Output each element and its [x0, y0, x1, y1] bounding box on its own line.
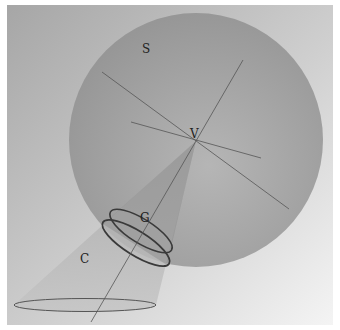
geometry-diagram: S V G C — [0, 0, 340, 330]
label-g: G — [140, 211, 150, 225]
label-v: V — [189, 127, 199, 141]
label-c: C — [80, 252, 89, 266]
label-s: S — [142, 42, 150, 56]
